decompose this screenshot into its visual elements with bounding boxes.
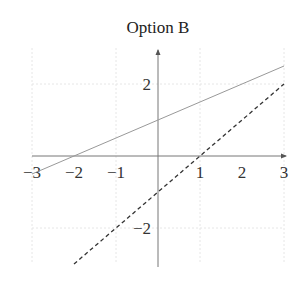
x-tick-label: 3	[280, 163, 289, 182]
chart-plot: −3−2−1123−22	[0, 0, 302, 282]
axes	[32, 50, 286, 267]
x-tick-label: −1	[107, 163, 125, 182]
y-tick-label: 2	[143, 75, 152, 94]
x-tick-label: 2	[238, 163, 247, 182]
y-tick-label: −2	[133, 219, 151, 238]
x-tick-label: −3	[23, 163, 41, 182]
x-tick-label: −2	[65, 163, 83, 182]
x-tick-label: 1	[196, 163, 205, 182]
